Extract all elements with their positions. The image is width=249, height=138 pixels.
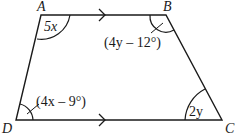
angle-label-b: (4y – 12°) <box>104 35 161 51</box>
angle-label-a: 5x <box>44 19 58 34</box>
vertex-label-b: B <box>163 0 172 14</box>
trapezoid-diagram: A B C D 5x (4y – 12°) 2y (4x – 9°) <box>0 0 249 138</box>
vertex-label-c: C <box>225 121 235 136</box>
angle-arc-d <box>20 104 33 120</box>
vertex-label-d: D <box>1 121 12 136</box>
angle-label-d: (4x – 9°) <box>36 94 86 110</box>
vertex-label-a: A <box>36 0 46 14</box>
angle-label-c: 2y <box>189 104 203 119</box>
